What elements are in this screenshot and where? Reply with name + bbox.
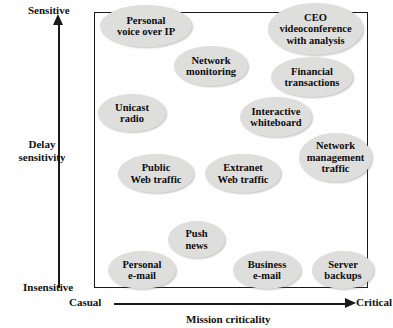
bubble-push-news: Push news <box>168 221 225 258</box>
bubble-extranet-web-traffic: Extranet Web traffic <box>205 154 281 193</box>
bubble-line-2: voice over IP <box>117 26 175 37</box>
x-axis-right-label: Critical <box>356 296 392 308</box>
bubble-line-1: Business <box>248 259 287 270</box>
bubble-label: Interactive whiteboard <box>248 106 303 129</box>
bubble-line-1: Network <box>316 140 355 151</box>
bubble-line-3: traffic <box>322 163 350 174</box>
bubble-line-2: videoconference <box>279 23 351 34</box>
bubble-label: Financial transactions <box>283 66 342 89</box>
bubble-line-1: Personal <box>122 259 161 270</box>
x-axis-arrowhead-icon <box>345 298 356 308</box>
bubble-label: Personal e-mail <box>120 259 163 282</box>
bubble-line-3: with analysis <box>286 35 344 46</box>
bubble-public-web-traffic: Public Web traffic <box>118 154 194 193</box>
bubble-network-management-traffic: Network management traffic <box>299 133 372 182</box>
bubble-label: Public Web traffic <box>128 162 183 185</box>
bubble-line-1: Network <box>191 55 230 66</box>
bubble-interactive-whiteboard: Interactive whiteboard <box>240 97 312 137</box>
bubble-label: Business e-mail <box>246 259 289 282</box>
bubble-line-2: backups <box>324 270 361 281</box>
bubble-line-1: Unicast <box>115 102 149 113</box>
bubble-unicast-radio: Unicast radio <box>98 94 166 132</box>
bubble-line-1: Push <box>185 228 207 239</box>
bubble-line-1: Extranet <box>223 162 263 173</box>
x-axis-title: Mission criticality <box>186 313 271 325</box>
bubble-line-2: transactions <box>285 77 340 88</box>
bubble-line-1: Server <box>328 259 358 270</box>
bubble-personal-email: Personal e-mail <box>108 251 176 289</box>
x-axis-left-label: Casual <box>69 296 101 308</box>
bubble-line-2: Web traffic <box>130 174 181 185</box>
bubble-network-monitoring: Network monitoring <box>174 46 248 86</box>
bubble-line-1: Financial <box>291 66 333 77</box>
bubble-line-1: Public <box>142 162 171 173</box>
bubble-business-email: Business e-mail <box>233 251 301 289</box>
x-axis-line <box>114 303 347 305</box>
y-axis-top-label: Sensitive <box>28 4 70 16</box>
bubble-personal-voice-over-ip: Personal voice over IP <box>100 5 192 47</box>
bubble-line-2: e-mail <box>128 270 156 281</box>
bubble-line-2: radio <box>120 113 144 124</box>
bubble-label: Push news <box>183 228 209 251</box>
bubble-line-2: Web traffic <box>217 174 268 185</box>
bubble-line-2: news <box>185 240 207 251</box>
bubble-ceo-videoconference: CEO videoconference with analysis <box>268 3 363 55</box>
bubble-label: Network management traffic <box>305 140 367 175</box>
bubble-line-1: Interactive <box>252 106 301 117</box>
chart-canvas: Sensitive Insensitive Delay sensitivity … <box>0 0 393 328</box>
bubble-financial-transactions: Financial transactions <box>271 57 353 97</box>
bubble-line-2: whiteboard <box>250 117 301 128</box>
bubble-label: Personal voice over IP <box>115 15 177 38</box>
bubble-line-2: e-mail <box>253 270 281 281</box>
bubble-server-backups: Server backups <box>312 251 374 289</box>
y-axis-bottom-label: Insensitive <box>23 281 73 293</box>
y-axis-title: Delay sensitivity <box>4 138 80 164</box>
bubble-line-2: monitoring <box>186 66 236 77</box>
bubble-label: Server backups <box>322 259 363 282</box>
bubble-label: CEO videoconference with analysis <box>277 12 353 47</box>
bubble-line-2: management <box>307 152 365 163</box>
bubble-label: Extranet Web traffic <box>215 162 270 185</box>
bubble-label: Network monitoring <box>184 55 238 78</box>
bubble-line-1: Personal <box>126 15 165 26</box>
bubble-line-1: CEO <box>304 12 327 23</box>
bubble-label: Unicast radio <box>113 102 151 125</box>
